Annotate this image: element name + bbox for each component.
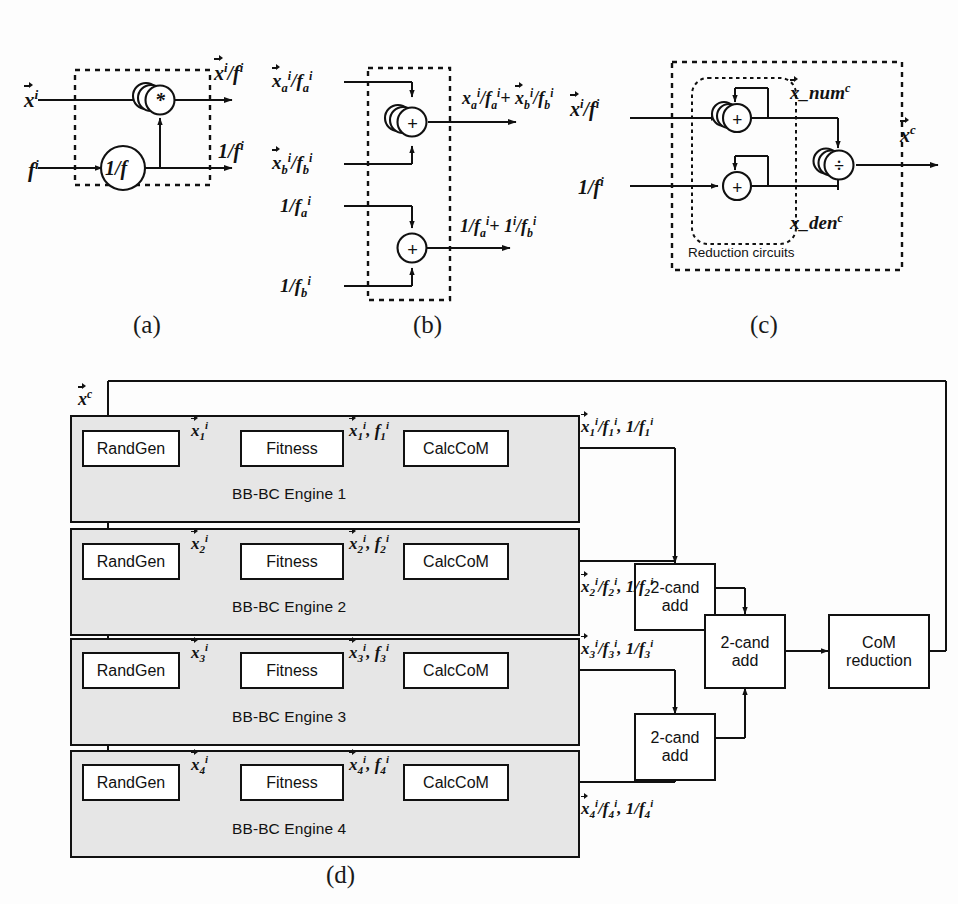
multiply-operator-label: * (155, 90, 165, 110)
block-calccom-2[interactable]: CalcCoM (403, 543, 509, 580)
block-2cand-add-top-line1: 2-cand (651, 579, 700, 597)
block-com-reduction-line2: reduction (846, 652, 912, 670)
panel-b-input-xa-fa-label: xai/fai (272, 70, 312, 95)
caption-a: (a) (133, 312, 161, 337)
edge-label-x2-f2: x2i, f2i (349, 533, 389, 555)
engine-label-2: BB-BC Engine 2 (232, 599, 346, 615)
block-calccom-3[interactable]: CalcCoM (403, 652, 509, 689)
block-randgen-3[interactable]: RandGen (82, 652, 180, 689)
panel-c-x-den-label: x_denc (790, 212, 843, 232)
edge-label-x4-f4: x4i, f4i (349, 754, 389, 776)
edge-label-x3-f3: x3i, f3i (349, 642, 389, 664)
edge-label-calccom-out-4: x4i/f4i, 1/f4i (581, 798, 653, 820)
block-2cand-add-top-line2: add (662, 597, 689, 615)
block-com-reduction-line1: CoM (862, 634, 896, 652)
engine-label-3: BB-BC Engine 3 (232, 709, 346, 725)
block-fitness-4[interactable]: Fitness (240, 764, 344, 801)
edge-label-calccom-out-2: x2i/f2i, 1/f2i (581, 576, 653, 598)
panel-c-x-num-label: x_numc (790, 82, 850, 102)
edge-label-x4: x4i (191, 754, 208, 776)
block-fitness-3[interactable]: Fitness (240, 652, 344, 689)
edge-label-x1-f1: x1i, f1i (349, 420, 389, 442)
block-2cand-add-final[interactable]: 2-cand add (704, 614, 786, 689)
block-randgen-1[interactable]: RandGen (82, 430, 180, 467)
engine-label-1: BB-BC Engine 1 (232, 486, 346, 502)
block-calccom-4[interactable]: CalcCoM (403, 764, 509, 801)
block-2cand-add-bottom-line2: add (662, 747, 689, 765)
panel-b-add-num-label: + (407, 114, 418, 133)
figure-canvas: xi fi xi/fi 1/fi 1/f * xai/fai xbi/fbi 1… (0, 0, 958, 904)
edge-label-x3: x3i (191, 642, 208, 664)
panel-a-output-inv-f-label: 1/fi (218, 140, 244, 161)
panel-b-input-inv-fb-label: 1/fbi (280, 275, 311, 300)
block-calccom-1[interactable]: CalcCoM (403, 430, 509, 467)
feedback-label-x-c: xc (78, 389, 92, 408)
panel-c-input-inv-f-label: 1/fi (578, 176, 604, 197)
panel-a-input-x-label: xi (24, 88, 38, 111)
caption-d: (d) (326, 862, 355, 887)
block-2cand-add-final-line1: 2-cand (721, 634, 770, 652)
reciprocal-block-label: 1/f (105, 158, 127, 178)
caption-c: (c) (750, 312, 778, 337)
panel-a-input-f-label: fi (28, 158, 39, 181)
block-randgen-2[interactable]: RandGen (82, 543, 180, 580)
panel-b-input-inv-fa-label: 1/fai (280, 195, 311, 220)
panel-c-input-x-over-f-label: xi/fi (570, 98, 599, 119)
panel-c-acc-num-label: + (732, 111, 742, 129)
panel-b-output-den-label: 1/fai+ 1i/fbi (460, 216, 536, 239)
block-2cand-add-final-line2: add (732, 652, 759, 670)
block-2cand-add-bottom-line1: 2-cand (651, 729, 700, 747)
block-fitness-1[interactable]: Fitness (240, 430, 344, 467)
block-com-reduction[interactable]: CoM reduction (828, 614, 930, 689)
engine-label-4: BB-BC Engine 4 (232, 821, 346, 837)
edge-label-calccom-out-3: x3i/f3i, 1/f3i (581, 638, 653, 660)
panel-b-add-den-label: + (407, 240, 418, 259)
block-randgen-4[interactable]: RandGen (82, 764, 180, 801)
panel-c-div-label: ÷ (834, 157, 844, 175)
panel-b-input-xb-fb-label: xbi/fbi (272, 152, 312, 177)
panel-b-output-num-label: xai/fai+ xbi/fbi (462, 88, 553, 111)
panel-c-acc-den-label: + (732, 179, 742, 197)
block-2cand-add-bottom[interactable]: 2-cand add (634, 713, 716, 781)
panel-c-output-x-c-label: xc (900, 124, 916, 145)
reduction-circuits-label: Reduction circuits (688, 246, 795, 260)
edge-label-x1: x1i (191, 420, 208, 442)
edge-label-calccom-out-1: x1i/f1i, 1/f1i (581, 416, 653, 438)
block-fitness-2[interactable]: Fitness (240, 543, 344, 580)
panel-a-output-x-over-f-label: xi/fi (214, 62, 243, 83)
edge-label-x2: x2i (191, 533, 208, 555)
caption-b: (b) (413, 312, 442, 337)
